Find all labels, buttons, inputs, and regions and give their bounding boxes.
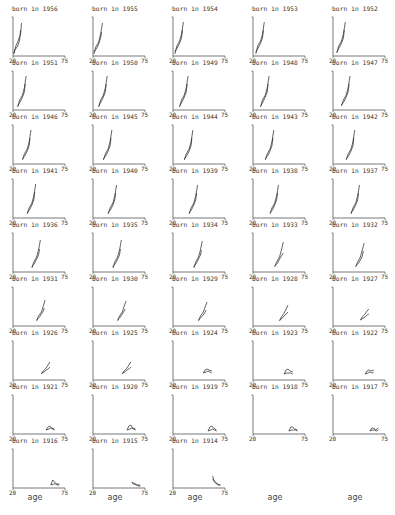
- panel-plot: [168, 281, 248, 335]
- series-line: [14, 30, 21, 53]
- series-line: [180, 76, 189, 107]
- chart-panel: born in 19172075: [328, 389, 395, 443]
- series-line: [99, 76, 108, 107]
- x-tick-label-max: 75: [141, 436, 148, 442]
- panel-plot: [8, 281, 88, 335]
- chart-panel: born in 19512075: [8, 65, 88, 119]
- axis-lines: [253, 17, 305, 56]
- axis-lines: [13, 287, 65, 326]
- panel-plot: [168, 173, 248, 227]
- chart-panel: born in 19162075: [8, 443, 88, 497]
- x-tick-label-max: 75: [221, 220, 228, 226]
- axis-lines: [93, 179, 145, 218]
- axis-lines: [333, 17, 385, 56]
- axis-lines: [93, 71, 145, 110]
- x-axis-label: age: [335, 493, 375, 502]
- panel-plot: [168, 119, 248, 173]
- chart-panel: born in 19492075: [168, 65, 248, 119]
- x-tick-label-max: 75: [381, 328, 388, 334]
- series-line: [94, 23, 103, 54]
- chart-panel: born in 19462075: [8, 119, 88, 173]
- series-line: [370, 430, 379, 431]
- series-line: [189, 185, 198, 214]
- panel-plot: [8, 389, 88, 443]
- chart-panel: born in 19392075: [168, 173, 248, 227]
- series-line: [342, 76, 351, 106]
- axis-lines: [173, 179, 225, 218]
- axis-lines: [253, 179, 305, 218]
- x-tick-label-max: 75: [61, 58, 68, 64]
- x-tick-label-max: 75: [381, 274, 388, 280]
- chart-panel: born in 19552075: [88, 11, 168, 65]
- series-line: [261, 76, 270, 107]
- series-line: [103, 130, 112, 160]
- panel-plot: [248, 227, 328, 281]
- x-tick-label-max: 75: [141, 112, 148, 118]
- chart-panel: born in 19342075: [168, 227, 248, 281]
- axis-lines: [93, 341, 145, 380]
- x-axis-label: age: [255, 493, 295, 502]
- x-tick-label-max: 75: [221, 436, 228, 442]
- panel-plot: [8, 443, 88, 497]
- x-axis-label: age: [95, 493, 135, 502]
- x-tick-label-max: 75: [381, 166, 388, 172]
- series-line: [199, 310, 207, 320]
- chart-panel: born in 19152075: [88, 443, 168, 497]
- axis-lines: [333, 125, 385, 164]
- chart-panel: born in 19332075: [248, 227, 328, 281]
- panel-plot: [168, 11, 248, 65]
- x-tick-label-max: 75: [61, 490, 68, 496]
- x-tick-label-min: 20: [249, 436, 256, 442]
- x-tick-label-min: 20: [329, 436, 336, 442]
- panel-plot: [8, 173, 88, 227]
- x-tick-label-max: 75: [61, 382, 68, 388]
- chart-panel: born in 19352075: [88, 227, 168, 281]
- chart-panel: born in 19472075: [328, 65, 395, 119]
- x-tick-label-max: 75: [61, 220, 68, 226]
- chart-panel: born in 19402075: [88, 173, 168, 227]
- chart-panel: born in 19302075: [88, 281, 168, 335]
- x-tick-label-max: 75: [301, 58, 308, 64]
- axis-lines: [333, 341, 385, 380]
- x-tick-label-max: 75: [221, 490, 228, 496]
- panel-plot: [248, 389, 328, 443]
- axis-lines: [93, 395, 145, 434]
- x-tick-label-max: 75: [221, 58, 228, 64]
- chart-panel: born in 19372075: [328, 173, 395, 227]
- panel-plot: [248, 335, 328, 389]
- x-tick-label-max: 75: [381, 436, 388, 442]
- chart-panel: born in 19252075: [88, 335, 168, 389]
- panel-plot: [248, 173, 328, 227]
- chart-panel: born in 19422075: [328, 119, 395, 173]
- series-line: [289, 430, 298, 431]
- panel-plot: [88, 281, 168, 335]
- chart-panel: born in 19362075: [8, 227, 88, 281]
- series-line: [337, 22, 346, 53]
- chart-panel: born in 19442075: [168, 119, 248, 173]
- panel-plot: [248, 119, 328, 173]
- panel-plot: [8, 65, 88, 119]
- axis-lines: [173, 395, 225, 434]
- chart-panel: born in 19502075: [88, 65, 168, 119]
- chart-panel: born in 19532075: [248, 11, 328, 65]
- x-tick-label-max: 75: [301, 220, 308, 226]
- chart-panel: born in 19192075: [168, 389, 248, 443]
- series-line: [118, 301, 127, 321]
- series-line: [27, 184, 36, 214]
- axis-lines: [253, 71, 305, 110]
- x-tick-label-max: 75: [301, 328, 308, 334]
- axis-lines: [173, 233, 225, 272]
- panel-plot: [88, 443, 168, 497]
- panel-plot: [88, 119, 168, 173]
- chart-panel: born in 19482075: [248, 65, 328, 119]
- x-tick-label-max: 75: [141, 274, 148, 280]
- x-tick-label-max: 75: [381, 382, 388, 388]
- axis-lines: [253, 125, 305, 164]
- x-tick-label-max: 75: [381, 58, 388, 64]
- x-tick-label-max: 75: [301, 274, 308, 280]
- axis-lines: [253, 395, 305, 434]
- chart-panel: born in 19452075: [88, 119, 168, 173]
- panel-plot: [88, 65, 168, 119]
- chart-panel: born in 19562075: [8, 11, 88, 65]
- chart-panel: born in 19262075: [8, 335, 88, 389]
